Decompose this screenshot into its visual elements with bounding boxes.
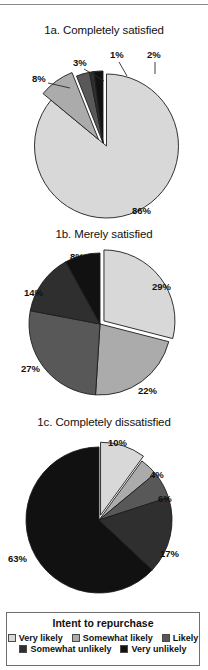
slice-label-1c-somewhat-unlikely: 17% bbox=[160, 549, 179, 559]
slice-label-1b-very-likely: 29% bbox=[152, 282, 171, 292]
legend-swatch-somewhat-unlikely bbox=[19, 645, 27, 653]
pie-chart-1c bbox=[0, 428, 208, 608]
slice-label-1c-very-unlikely: 63% bbox=[8, 554, 27, 564]
pie-wrap-1c: 10% 4% 6% 17% 63% bbox=[0, 428, 208, 608]
slice-label-1a-somewhat-likely: 8% bbox=[32, 74, 46, 84]
legend-row-top: Very likely Somewhat likely Likely bbox=[7, 633, 199, 644]
legend-item-likely[interactable]: Likely bbox=[162, 634, 199, 643]
slice-label-1b-very-unlikely: 8% bbox=[70, 252, 84, 262]
slice-label-1b-somewhat-likely: 22% bbox=[138, 386, 157, 396]
chart-title-1c: 1c. Completely dissatisfied bbox=[0, 416, 208, 428]
legend-row-bottom: Somewhat unlikely Very unlikely bbox=[7, 644, 199, 655]
legend-swatch-somewhat-likely bbox=[72, 634, 80, 642]
legend-title: Intent to repurchase bbox=[7, 613, 199, 633]
legend-swatch-likely bbox=[162, 634, 170, 642]
chart-title-1a: 1a. Completely satisfied bbox=[0, 24, 208, 36]
legend-swatch-very-likely bbox=[8, 634, 16, 642]
slice-label-1b-somewhat-unlikely: 14% bbox=[24, 288, 43, 298]
legend-item-somewhat-unlikely[interactable]: Somewhat unlikely bbox=[19, 645, 111, 654]
chart-title-1b: 1b. Merely satisfied bbox=[0, 228, 208, 240]
legend-item-somewhat-likely[interactable]: Somewhat likely bbox=[72, 634, 153, 643]
label-leader-line bbox=[119, 62, 127, 76]
chart-block-1b: 1b. Merely satisfied 29% 22% 27% 14% 8% bbox=[0, 228, 208, 412]
slice-label-1c-somewhat-likely: 4% bbox=[150, 470, 164, 480]
slice-label-1a-very-unlikely: 2% bbox=[147, 50, 161, 60]
slice-label-1a-very-likely: 86% bbox=[132, 206, 151, 216]
chart-block-1a: 1a. Completely satisfied 2% 1% 3% 8% 86% bbox=[0, 24, 208, 226]
pie-slice[interactable] bbox=[29, 311, 100, 395]
pie-wrap-1a: 2% 1% 3% 8% 86% bbox=[0, 36, 208, 226]
top-divider-rule bbox=[0, 4, 208, 5]
figure-root: 1a. Completely satisfied 2% 1% 3% 8% 86%… bbox=[0, 0, 208, 670]
slice-label-1c-very-likely: 10% bbox=[108, 438, 127, 448]
slice-label-1b-likely: 27% bbox=[21, 364, 40, 374]
legend-label-somewhat-likely: Somewhat likely bbox=[83, 634, 153, 643]
legend-swatch-very-unlikely bbox=[120, 645, 128, 653]
slice-label-1a-somewhat-unlikely: 1% bbox=[110, 50, 124, 60]
slice-label-1a-likely: 3% bbox=[73, 58, 87, 68]
legend-label-very-unlikely: Very unlikely bbox=[131, 645, 186, 654]
pie-wrap-1b: 29% 22% 27% 14% 8% bbox=[0, 240, 208, 412]
legend-item-very-unlikely[interactable]: Very unlikely bbox=[120, 645, 186, 654]
legend-box: Intent to repurchase Very likely Somewha… bbox=[6, 612, 200, 666]
chart-block-1c: 1c. Completely dissatisfied 10% 4% 6% 17… bbox=[0, 416, 208, 608]
pie-chart-1b bbox=[0, 240, 208, 412]
pie-slice[interactable] bbox=[104, 250, 175, 339]
slice-label-1c-likely: 6% bbox=[158, 494, 172, 504]
legend-label-very-likely: Very likely bbox=[19, 634, 63, 643]
pie-chart-1a bbox=[0, 36, 208, 226]
legend-label-likely: Likely bbox=[173, 634, 199, 643]
legend-item-very-likely[interactable]: Very likely bbox=[8, 634, 63, 643]
legend-label-somewhat-unlikely: Somewhat unlikely bbox=[30, 645, 111, 654]
